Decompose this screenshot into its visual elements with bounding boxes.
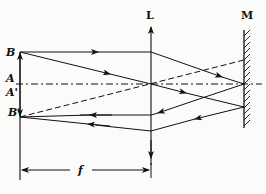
focal-length-dimension: [22, 163, 151, 178]
point-b-label: B: [5, 46, 15, 59]
point-a-prime-label: A': [5, 86, 18, 99]
point-b-prime-label: B': [7, 106, 21, 119]
plane-mirror: [244, 30, 250, 128]
dashed-construction-line: [20, 60, 244, 117]
optics-diagram: L M B A A' B' f: [0, 0, 266, 194]
lens-label: L: [146, 9, 154, 22]
incident-rays: [20, 52, 244, 107]
reflected-rays: [20, 84, 244, 131]
focal-length-label: f: [77, 164, 85, 177]
mirror-label: M: [241, 9, 253, 22]
point-a-label: A: [5, 72, 15, 85]
